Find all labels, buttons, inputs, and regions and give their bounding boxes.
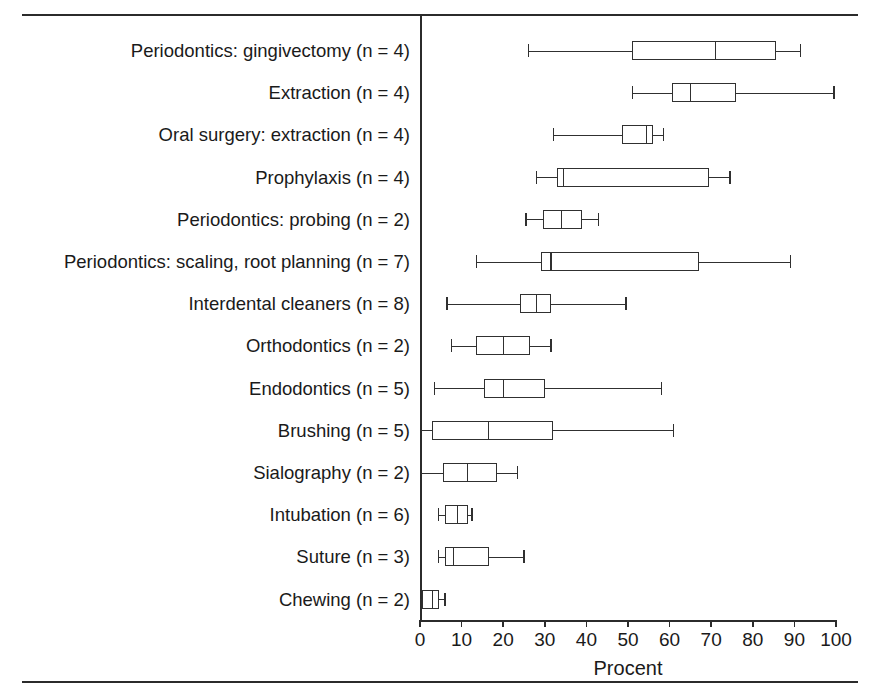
whisker-cap-low (434, 382, 435, 395)
whisker-cap-high (661, 382, 662, 395)
box-iqr (557, 168, 709, 187)
whisker-cap-high (550, 339, 551, 352)
whisker-cap-high (625, 297, 626, 310)
figure-container: Periodontics: gingivectomy (n = 4)Extrac… (0, 0, 880, 699)
median-line (453, 547, 454, 566)
whisker-low (451, 346, 476, 347)
whisker-cap-high (729, 171, 730, 184)
x-tick-label-100: 100 (820, 628, 852, 652)
whisker-cap-low (536, 171, 537, 184)
x-tick-label-10: 10 (451, 628, 472, 652)
whisker-cap-low (528, 44, 529, 57)
whisker-high (699, 262, 791, 263)
box-iqr (632, 41, 776, 60)
median-line (550, 252, 551, 271)
whisker-low (536, 177, 557, 178)
x-tick-label-80: 80 (742, 628, 763, 652)
x-tick-label-30: 30 (534, 628, 555, 652)
box-iqr (443, 463, 497, 482)
x-tick-label-20: 20 (493, 628, 514, 652)
median-line (467, 463, 468, 482)
box-iqr (672, 83, 736, 102)
boxplot-row: Suture (n = 3) (0, 536, 880, 578)
whisker-cap-low (438, 550, 439, 563)
whisker-low (420, 430, 432, 431)
boxplot-row: Periodontics: gingivectomy (n = 4) (0, 30, 880, 72)
whisker-cap-high (598, 213, 599, 226)
whisker-cap-low (446, 297, 447, 310)
x-tick-0 (419, 620, 421, 627)
x-axis-title: Procent (420, 657, 836, 680)
whisker-high (553, 430, 674, 431)
box-iqr (422, 590, 439, 609)
x-tick-20 (502, 620, 504, 627)
boxplot-row: Extraction (n = 4) (0, 72, 880, 114)
boxplot-row: Chewing (n = 2) (0, 579, 880, 621)
whisker-cap-low (476, 255, 477, 268)
box-whisker-glyph (0, 114, 880, 156)
median-line (488, 421, 489, 440)
whisker-cap-low (438, 508, 439, 521)
x-tick-label-70: 70 (701, 628, 722, 652)
whisker-cap-low (553, 128, 554, 141)
median-line (715, 41, 716, 60)
box-whisker-glyph (0, 157, 880, 199)
box-iqr (541, 252, 699, 271)
whisker-cap-high (833, 86, 834, 99)
whisker-low (435, 388, 485, 389)
whisker-high (497, 473, 518, 474)
whisker-cap-high (523, 550, 524, 563)
median-line (646, 125, 647, 144)
boxplot-row: Sialography (n = 2) (0, 452, 880, 494)
x-tick-label-40: 40 (576, 628, 597, 652)
whisker-low (526, 219, 543, 220)
x-tick-label-0: 0 (415, 628, 426, 652)
x-tick-50 (627, 620, 629, 627)
box-whisker-glyph (0, 30, 880, 72)
box-whisker-glyph (0, 241, 880, 283)
whisker-high (736, 93, 834, 94)
x-tick-90 (794, 620, 796, 627)
whisker-low (632, 93, 672, 94)
boxplot-row: Brushing (n = 5) (0, 410, 880, 452)
boxplot-row: Prophylaxis (n = 4) (0, 157, 880, 199)
whisker-cap-high (471, 508, 472, 521)
bottom-rule (22, 681, 858, 683)
whisker-low (420, 473, 443, 474)
box-iqr (484, 379, 544, 398)
box-iqr (432, 421, 553, 440)
boxplot-row: Intubation (n = 6) (0, 494, 880, 536)
whisker-cap-high (663, 128, 664, 141)
whisker-high (582, 219, 599, 220)
whisker-high (489, 557, 524, 558)
x-tick-10 (461, 620, 463, 627)
median-line (503, 379, 504, 398)
boxplot-row: Endodontics (n = 5) (0, 368, 880, 410)
box-whisker-glyph (0, 325, 880, 367)
box-whisker-glyph (0, 410, 880, 452)
whisker-high (530, 346, 551, 347)
median-line (536, 294, 537, 313)
median-line (561, 210, 562, 229)
whisker-high (709, 177, 730, 178)
whisker-cap-high (800, 44, 801, 57)
whisker-low (447, 304, 520, 305)
box-whisker-glyph (0, 368, 880, 410)
box-iqr (622, 125, 653, 144)
boxplot-row: Periodontics: scaling, root planning (n … (0, 241, 880, 283)
whisker-cap-high (444, 593, 445, 606)
whisker-cap-low (632, 86, 633, 99)
x-tick-70 (710, 620, 712, 627)
whisker-high (551, 304, 626, 305)
boxplot-row: Periodontics: probing (n = 2) (0, 199, 880, 241)
box-whisker-glyph (0, 579, 880, 621)
whisker-low (476, 262, 540, 263)
box-whisker-glyph (0, 283, 880, 325)
median-line (503, 336, 504, 355)
whisker-cap-high (790, 255, 791, 268)
x-tick-40 (586, 620, 588, 627)
x-tick-60 (669, 620, 671, 627)
box-whisker-glyph (0, 536, 880, 578)
whisker-low (553, 135, 622, 136)
whisker-cap-high (673, 424, 674, 437)
